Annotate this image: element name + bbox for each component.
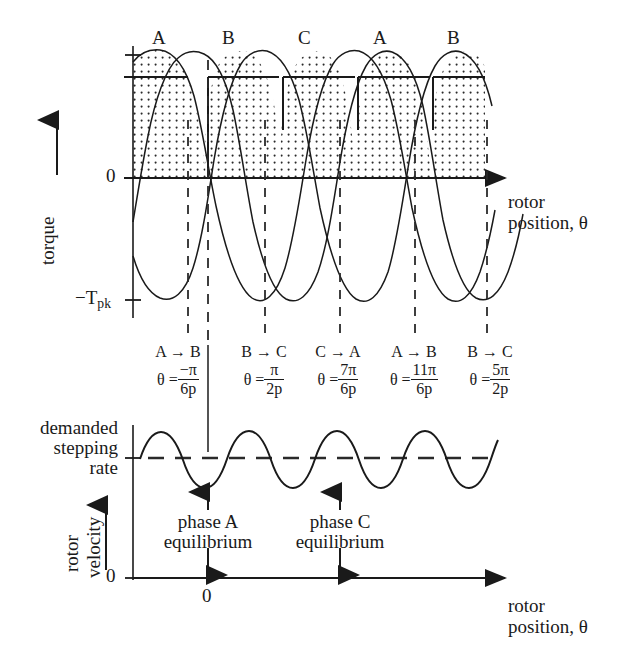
transition-2-num: 7π [338, 361, 358, 380]
rotor-velocity-axis-label-line1: rotor [62, 535, 82, 572]
stepper-torque-velocity-figure: torque 0 −Tpk rotor position, θ A B C A … [0, 0, 619, 662]
transition-3-theta-lhs: θ = [390, 372, 411, 389]
transition-3-label: A → B [372, 344, 456, 361]
transition-1-theta: θ =π2p [224, 361, 304, 399]
demanded-stepping-rate-line3: rate [30, 458, 118, 478]
bottom-y-zero-label: 0 [106, 566, 116, 586]
phase-label-b1: B [222, 28, 235, 48]
transition-3-num: 11π [411, 361, 438, 380]
transition-4-theta: θ =5π2p [448, 361, 532, 399]
phase-a-equilibrium-line2: equilibrium [150, 532, 266, 552]
phase-a-equilibrium-annotation: phase A equilibrium [150, 512, 266, 552]
demanded-stepping-rate-line1: demanded [30, 418, 118, 438]
transition-3: A → B θ =11π6p [372, 344, 456, 399]
phase-label-a2: A [373, 28, 387, 48]
transition-4-den: 2p [490, 380, 510, 398]
bottom-x-origin-label: 0 [202, 586, 212, 606]
demanded-stepping-rate-label: demanded stepping rate [30, 418, 118, 478]
transition-0-num: −π [178, 361, 199, 380]
transition-0: A → B θ =−π6p [138, 344, 218, 399]
bottom-x-axis-label-line1: rotor [508, 596, 545, 616]
phase-c-equilibrium-annotation: phase C equilibrium [282, 512, 398, 552]
transition-0-den: 6p [178, 380, 199, 398]
bottom-x-axis-label-line2: position, θ [508, 617, 588, 637]
transition-2-theta: θ =7π6p [298, 361, 378, 399]
transition-4-num: 5π [490, 361, 510, 380]
phase-a-equilibrium-line1: phase A [150, 512, 266, 532]
transition-4-label: B → C [448, 344, 532, 361]
transition-0-label: A → B [138, 344, 218, 361]
transition-2-den: 6p [338, 380, 358, 398]
transition-2-theta-lhs: θ = [318, 372, 339, 389]
phase-c-equilibrium-line2: equilibrium [282, 532, 398, 552]
transition-2: C → A θ =7π6p [298, 344, 378, 399]
torque-peak-tick-label: −Tpk [75, 288, 111, 311]
torque-peak-tick-main: −T [75, 287, 97, 308]
transition-1: B → C θ =π2p [224, 344, 304, 399]
phase-label-c1: C [298, 28, 311, 48]
top-x-axis-label-line2: position, θ [508, 213, 588, 233]
transition-0-theta: θ =−π6p [138, 361, 218, 399]
torque-axis-label: torque [38, 216, 58, 265]
top-x-axis-label-line1: rotor [508, 192, 545, 212]
transition-2-label: C → A [298, 344, 378, 361]
transition-4: B → C θ =5π2p [448, 344, 532, 399]
transition-1-den: 2p [264, 380, 284, 398]
demanded-stepping-rate-line2: stepping [30, 438, 118, 458]
torque-zero-tick-label: 0 [106, 166, 116, 186]
transition-1-num: π [264, 361, 284, 380]
rotor-velocity-ripple-curve [140, 431, 498, 488]
transition-3-theta: θ =11π6p [372, 361, 456, 399]
transition-0-theta-lhs: θ = [157, 372, 178, 389]
transition-3-den: 6p [411, 380, 438, 398]
torque-peak-tick-sub: pk [97, 296, 111, 311]
transition-4-theta-lhs: θ = [470, 372, 491, 389]
transition-1-label: B → C [224, 344, 304, 361]
transition-1-theta-lhs: θ = [244, 372, 265, 389]
rotor-velocity-axis-label-line2: velocity [84, 517, 104, 578]
phase-label-a1: A [152, 28, 166, 48]
phase-label-b2: B [447, 28, 460, 48]
phase-c-equilibrium-line1: phase C [282, 512, 398, 532]
